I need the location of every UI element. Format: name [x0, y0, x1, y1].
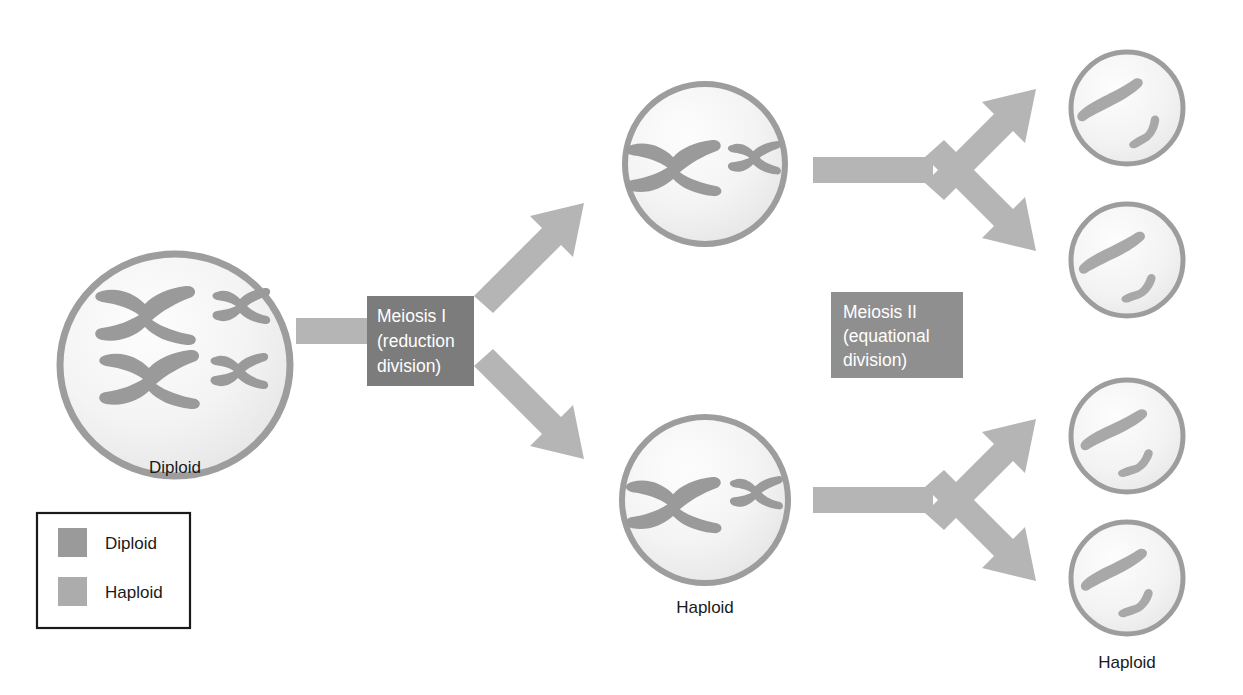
cell-gamete-2	[1071, 204, 1183, 316]
meiosis-ii-line-1: Meiosis II	[843, 302, 917, 322]
cell-gamete-3	[1071, 380, 1183, 492]
legend-label-haploid: Haploid	[105, 583, 163, 602]
meiosis-diagram-figure: Diploid Meiosis I (reduction division) H…	[0, 0, 1243, 695]
label-box-meiosis-ii: Meiosis II (equational division)	[831, 292, 963, 378]
legend: Diploid Haploid	[37, 513, 190, 628]
legend-swatch-diploid	[58, 528, 87, 557]
meiosis-i-line-1: Meiosis I	[377, 306, 446, 326]
meiosis-ii-line-2: (equational	[843, 326, 930, 346]
arrow-meiosis-i-to-top-cell	[474, 203, 584, 313]
legend-swatch-haploid	[58, 577, 87, 606]
caption-parent-diploid: Diploid	[149, 458, 201, 477]
caption-gamete-haploid: Haploid	[1098, 653, 1156, 672]
cell-gamete-1	[1071, 52, 1183, 164]
cell-gamete-4	[1071, 522, 1183, 634]
arrow-fork-meiosis-ii-bottom	[813, 419, 1036, 581]
arrow-stem-to-meiosis-i	[296, 318, 374, 344]
meiosis-i-line-3: division)	[377, 356, 441, 376]
arrow-fork-meiosis-ii-top	[789, 88, 1036, 256]
meiosis-i-line-2: (reduction	[377, 331, 455, 351]
meiosis-ii-line-3: division)	[843, 350, 907, 370]
meiosis-diagram-canvas: Diploid Meiosis I (reduction division) H…	[0, 0, 1243, 695]
caption-meiosis-i-product: Haploid	[676, 598, 734, 617]
cell-meiosis-i-daughter-bottom	[622, 417, 788, 583]
legend-label-diploid: Diploid	[105, 534, 157, 553]
cell-parent-diploid	[60, 254, 290, 476]
label-box-meiosis-i: Meiosis I (reduction division)	[367, 296, 474, 386]
arrow-meiosis-i-to-bottom-cell	[474, 349, 584, 459]
cell-meiosis-i-daughter-top	[625, 84, 785, 244]
